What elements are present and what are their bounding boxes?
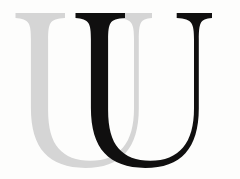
logo-canvas (0, 0, 240, 179)
logo-artwork (0, 0, 240, 179)
